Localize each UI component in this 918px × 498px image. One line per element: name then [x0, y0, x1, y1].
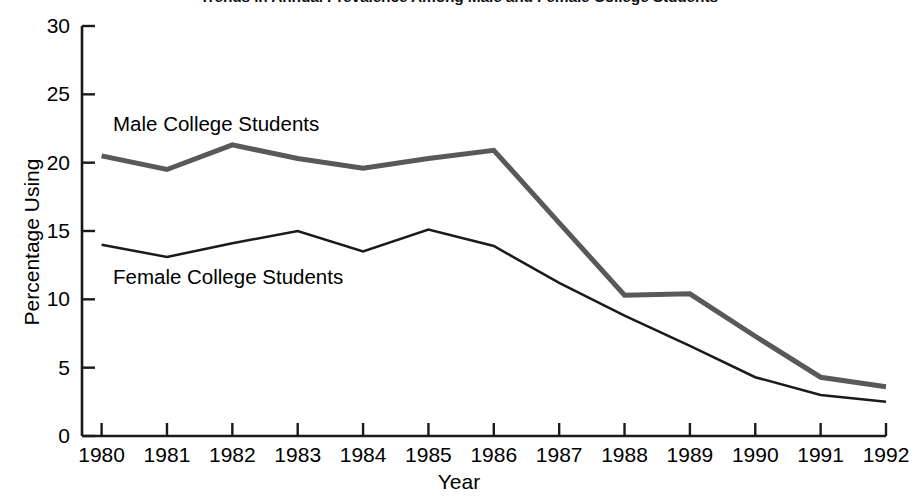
plot-area: [0, 0, 918, 498]
series-label-male: Male College Students: [113, 112, 319, 136]
x-axis-ticks: [102, 423, 886, 436]
x-tick-label: 1980: [78, 443, 125, 467]
y-axis-ticks: [82, 26, 95, 436]
x-tick-label: 1991: [797, 443, 844, 467]
series-label-female: Female College Students: [113, 265, 343, 289]
y-tick-label: 30: [0, 14, 70, 38]
series-line: [102, 230, 886, 402]
x-tick-label: 1992: [863, 443, 910, 467]
x-tick-label: 1985: [405, 443, 452, 467]
x-tick-label: 1982: [209, 443, 256, 467]
x-tick-label: 1986: [470, 443, 517, 467]
y-tick-label: 0: [0, 424, 70, 448]
axis-lines: [82, 26, 886, 436]
x-tick-label: 1990: [732, 443, 779, 467]
chart-figure: Trends in Annual Prevalence Among Male a…: [0, 0, 918, 498]
x-tick-label: 1983: [274, 443, 321, 467]
x-tick-label: 1989: [667, 443, 714, 467]
x-tick-label: 1988: [601, 443, 648, 467]
y-axis-title: Percentage Using: [20, 122, 44, 362]
x-tick-label: 1981: [144, 443, 191, 467]
x-tick-label: 1984: [340, 443, 387, 467]
y-tick-label: 25: [0, 82, 70, 106]
x-axis-title: Year: [0, 470, 918, 494]
x-tick-label: 1987: [536, 443, 583, 467]
